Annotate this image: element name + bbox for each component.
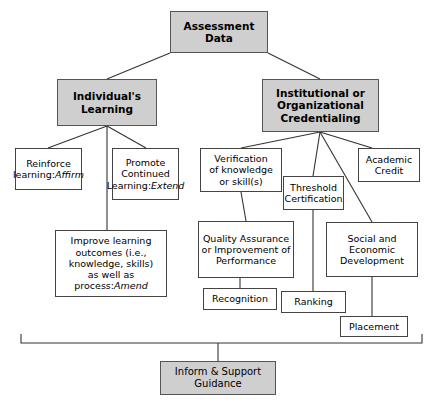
node-inform-support-guidance-label: Inform & Support Guidance: [173, 366, 263, 390]
node-assessment-data-label: Assessment Data: [182, 20, 257, 45]
node-social-economic-development: Social and Economic Development: [326, 222, 418, 277]
node-institutional-credentialing-label: Institutional or Organizational Credenti…: [274, 87, 367, 124]
node-improve-learning-outcomes-label: Improve learning outcomes (i.e., knowled…: [56, 235, 166, 291]
node-social-economic-development-label: Social and Economic Development: [338, 233, 406, 267]
node-individuals-learning: Individual's Learning: [57, 79, 157, 126]
node-ranking: Ranking: [281, 291, 346, 313]
node-threshold-certification: Threshold Certification: [283, 176, 344, 210]
node-reinforce-learning: Reinforce learning:Affirm: [15, 148, 82, 190]
node-assessment-data: Assessment Data: [170, 11, 268, 53]
node-verification-of-knowledge-label: Verification of knowledge or skill(s): [207, 153, 275, 187]
node-recognition: Recognition: [203, 288, 277, 310]
node-ranking-label: Ranking: [292, 296, 334, 307]
node-academic-credit-label: Academic Credit: [364, 154, 414, 176]
node-placement-label: Placement: [347, 321, 401, 332]
connector-lines: [0, 0, 437, 405]
node-promote-continued-learning: Promote Continued Learning:Extend: [112, 148, 179, 200]
node-placement: Placement: [340, 316, 408, 337]
assessment-data-flowchart: Assessment Data Individual's Learning In…: [0, 0, 437, 405]
node-promote-continued-learning-label: Promote Continued Learning:Extend: [105, 157, 187, 191]
node-improve-learning-outcomes-emphasis: Amend: [114, 280, 148, 291]
node-individuals-learning-label: Individual's Learning: [71, 90, 143, 115]
node-reinforce-learning-label: Reinforce learning:Affirm: [11, 158, 86, 180]
node-institutional-credentialing: Institutional or Organizational Credenti…: [262, 79, 379, 132]
node-quality-assurance-label: Quality Assurance or Improvement of Perf…: [200, 233, 293, 267]
node-quality-assurance: Quality Assurance or Improvement of Perf…: [198, 221, 294, 278]
node-recognition-label: Recognition: [210, 293, 270, 304]
node-academic-credit: Academic Credit: [358, 148, 420, 182]
node-promote-continued-learning-emphasis: Extend: [151, 180, 184, 191]
node-reinforce-learning-emphasis: Affirm: [55, 169, 84, 180]
node-threshold-certification-label: Threshold Certification: [283, 182, 345, 204]
node-improve-learning-outcomes: Improve learning outcomes (i.e., knowled…: [55, 230, 167, 297]
node-verification-of-knowledge: Verification of knowledge or skill(s): [200, 148, 282, 192]
node-inform-support-guidance: Inform & Support Guidance: [160, 361, 276, 395]
